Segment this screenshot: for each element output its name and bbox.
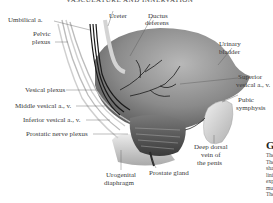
label-prostate-gland: Prostate gland <box>149 169 189 177</box>
side-column-text: The The sha lini exp mu The <box>266 152 273 198</box>
side-column-heading: Gl <box>266 139 273 151</box>
label-pubic-symphysis-line2: symphysis <box>236 104 266 112</box>
label-ductus-deferens-line2: deferens <box>145 19 169 27</box>
label-pubic-symphysis-line1: Pubic <box>238 96 254 104</box>
label-superior-vesical-line1: Superior <box>238 73 262 81</box>
label-umbilical-artery: Umbilical a. <box>8 16 43 24</box>
label-prostatic-nerve-plexus: Prostatic nerve plexus <box>26 130 88 138</box>
label-urogenital-diaphragm-line1: Urogenital <box>106 171 136 179</box>
label-urogenital-diaphragm-line2: diaphragm <box>104 179 134 187</box>
label-deep-dorsal-vein-line2: vein of <box>201 151 221 159</box>
label-vesical-plexus: Vesical plexus <box>25 86 65 94</box>
label-middle-vesical: Middle vesical a., v. <box>15 102 71 110</box>
label-urinary-bladder-line2: bladder <box>219 48 240 56</box>
label-pelvic-plexus-line1: Pelvic <box>33 30 51 38</box>
label-deep-dorsal-vein-line3: the penis <box>197 159 222 167</box>
label-inferior-vesical: Inferior vesical a., v. <box>23 116 80 124</box>
label-superior-vesical-line2: vesical a., v. <box>236 81 270 89</box>
label-pelvic-plexus-line2: plexus <box>32 38 50 46</box>
label-deep-dorsal-vein-line1: Deep dorsal <box>194 143 228 151</box>
label-ureter: Ureter <box>109 12 127 20</box>
label-urinary-bladder-line1: Urinary <box>219 40 241 48</box>
